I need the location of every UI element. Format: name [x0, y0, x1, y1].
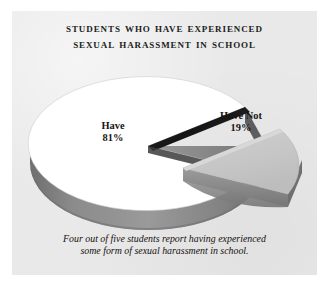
chart-panel: Students Who Have Experienced Sexual Har…: [12, 11, 317, 275]
pie-label-have-name: Have: [84, 120, 142, 132]
pie-label-have: Have 81%: [84, 120, 142, 143]
pie-label-have-not-name: Have Not: [208, 110, 274, 122]
chart-caption: Four out of five students report having …: [28, 233, 301, 258]
chart-figure: Students Who Have Experienced Sexual Har…: [0, 0, 329, 287]
chart-caption-line-2: some form of sexual harassment in school…: [28, 245, 301, 257]
chart-title: Students Who Have Experienced Sexual Har…: [12, 20, 317, 51]
pie-label-have-percent: 81%: [84, 132, 142, 144]
chart-title-line-2: Sexual Harassment in School: [12, 36, 317, 52]
chart-caption-line-1: Four out of five students report having …: [28, 233, 301, 245]
pie-label-have-not: Have Not 19%: [208, 110, 274, 133]
chart-title-line-1: Students Who Have Experienced: [12, 20, 317, 36]
pie-label-have-not-percent: 19%: [208, 122, 274, 134]
